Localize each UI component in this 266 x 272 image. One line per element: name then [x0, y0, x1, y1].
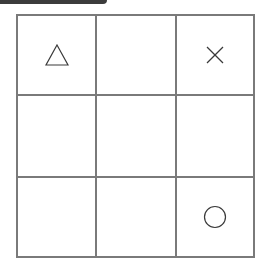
top-bar: [0, 0, 107, 4]
cell-r2-c3[interactable]: [177, 96, 253, 178]
triangle-icon: [45, 44, 69, 66]
cell-r2-c2[interactable]: [97, 96, 177, 178]
cell-r1-c1[interactable]: [18, 16, 97, 96]
cross-icon: [206, 46, 224, 64]
cell-r3-c2[interactable]: [97, 178, 177, 256]
cell-r3-c1[interactable]: [18, 178, 97, 256]
circle-icon: [203, 205, 227, 229]
cell-r2-c1[interactable]: [18, 96, 97, 178]
cell-r3-c3[interactable]: [177, 178, 253, 256]
game-board: [16, 14, 255, 258]
cell-r1-c3[interactable]: [177, 16, 253, 96]
cell-r1-c2[interactable]: [97, 16, 177, 96]
